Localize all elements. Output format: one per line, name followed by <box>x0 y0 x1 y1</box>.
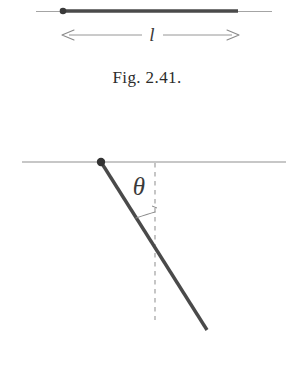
length-label: l <box>149 24 154 45</box>
pivot-point <box>97 158 105 166</box>
figure-2-41-diagram: l <box>0 0 294 60</box>
angle-label: θ <box>133 173 145 200</box>
figure-page: l Fig. 2.41. θ Fig. 2.42. <box>0 0 294 384</box>
pivot-point <box>60 8 67 15</box>
rod <box>101 162 207 330</box>
figure-2-41: l Fig. 2.41. <box>0 0 294 100</box>
figure-2-42-diagram: θ <box>0 130 294 350</box>
figure-2-41-caption: Fig. 2.41. <box>0 68 294 88</box>
figure-2-42: θ Fig. 2.42. <box>0 130 294 384</box>
angle-arc <box>136 212 155 218</box>
angle-arc-tick <box>152 206 157 208</box>
